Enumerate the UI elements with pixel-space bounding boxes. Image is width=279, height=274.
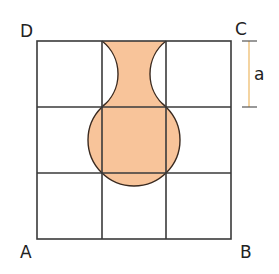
corner-label-d: D <box>20 21 33 41</box>
corner-label-c: C <box>235 19 247 39</box>
corner-label-a: A <box>20 242 32 262</box>
dimension-marker: a <box>242 41 264 107</box>
corner-label-b: B <box>240 242 252 262</box>
dimension-label: a <box>254 64 264 84</box>
diagram-canvas: a D C A B <box>0 0 279 274</box>
